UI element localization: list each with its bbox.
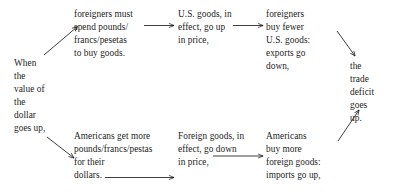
flowchart-canvas: When the value of the dollar goes up, fo…: [0, 0, 399, 192]
node-trade-deficit-up: the trade deficit goes up.: [350, 60, 394, 125]
node-americans-buy-more: Americans buy more foreign goods: import…: [266, 130, 340, 182]
node-americans-get-more: Americans get more pounds/francs/pestas …: [74, 130, 178, 182]
node-foreign-goods-down: Foreign goods, in effect, go down in pri…: [178, 130, 268, 169]
node-when-dollar-rises: When the value of the dollar goes up,: [14, 57, 74, 134]
node-foreigners-spend: foreigners must spend pounds/ francs/pes…: [74, 8, 170, 60]
arrow-when-to-foreigners-spend: [44, 27, 78, 56]
arrow-foreigners-buy-fewer-to-trade-deficit: [337, 31, 355, 56]
node-foreigners-buy-fewer: foreigners buy fewer U.S. goods: exports…: [266, 8, 334, 73]
node-us-goods-up: U.S. goods, in effect, go up in price,: [178, 8, 262, 47]
arrow-when-to-americans-get-more: [47, 137, 74, 158]
